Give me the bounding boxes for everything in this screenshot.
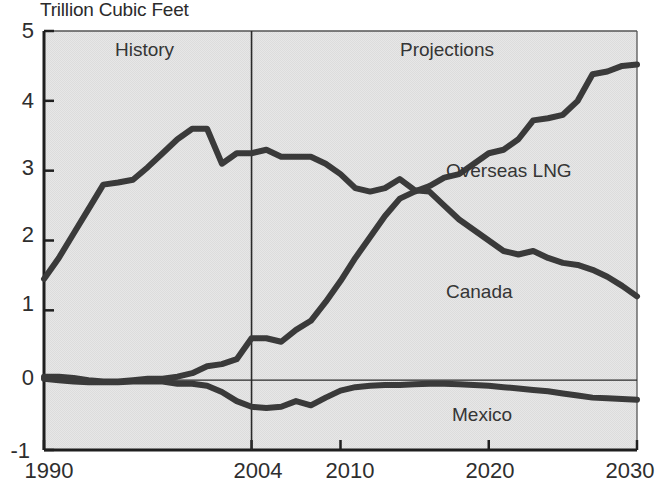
y-tick-label: 5 [4,18,34,44]
x-tick-label: 2010 [315,458,385,484]
x-tick-label: 2004 [223,458,293,484]
plot-area [0,0,657,501]
y-tick-label: 1 [4,291,34,317]
y-tick-label: 2 [4,222,34,248]
plot-background [44,31,637,450]
x-tick-label: 2030 [595,458,657,484]
x-tick-label: 1990 [14,458,84,484]
y-tick-label: 4 [4,88,34,114]
annotation-history: History [115,39,174,61]
series-label-overseas-lng: Overseas LNG [446,160,572,182]
series-label-canada: Canada [446,281,513,303]
x-tick-label: 2020 [455,458,525,484]
y-tick-label: 3 [4,155,34,181]
y-tick-label: 0 [4,365,34,391]
chart-container: Trillion Cubic Feet 5 4 3 2 1 0 -1 1990 … [0,0,657,501]
annotation-projections: Projections [400,39,494,61]
series-label-mexico: Mexico [452,404,512,426]
